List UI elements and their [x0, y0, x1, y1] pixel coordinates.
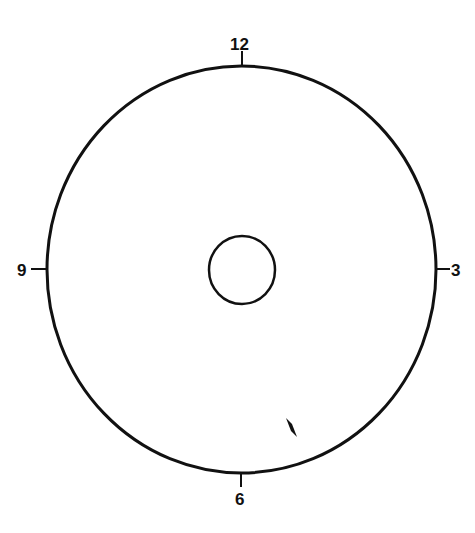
- label-9: 9: [17, 261, 26, 280]
- clock-diagram: 12 3 6 9: [0, 0, 475, 533]
- outer-circle: [47, 66, 436, 473]
- label-3: 3: [451, 261, 460, 280]
- label-6: 6: [235, 490, 244, 509]
- label-12: 12: [230, 35, 249, 54]
- marker-shape: [286, 418, 297, 437]
- inner-circle: [209, 236, 275, 304]
